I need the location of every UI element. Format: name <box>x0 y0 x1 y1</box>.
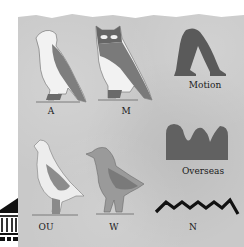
glyph-label-m: M <box>121 106 130 116</box>
glyph-label-ou: OU <box>39 222 54 232</box>
owl-glyph-icon <box>94 24 154 106</box>
glyph-label-n: N <box>189 222 197 232</box>
water-zigzag-glyph-icon <box>154 194 240 218</box>
falcon-glyph-icon <box>28 28 88 106</box>
walking-legs-glyph-icon <box>170 28 228 78</box>
quail-chick-glyph-icon <box>28 138 86 218</box>
hill-country-glyph-icon <box>164 124 230 162</box>
swallow-glyph-icon <box>86 146 148 218</box>
museum-building-icon[interactable] <box>0 196 18 244</box>
glyph-label-motion: Motion <box>189 80 221 90</box>
glyph-label-overseas: Overseas <box>182 166 224 176</box>
glyph-label-a: A <box>48 106 55 116</box>
glyph-label-w: W <box>109 222 118 232</box>
